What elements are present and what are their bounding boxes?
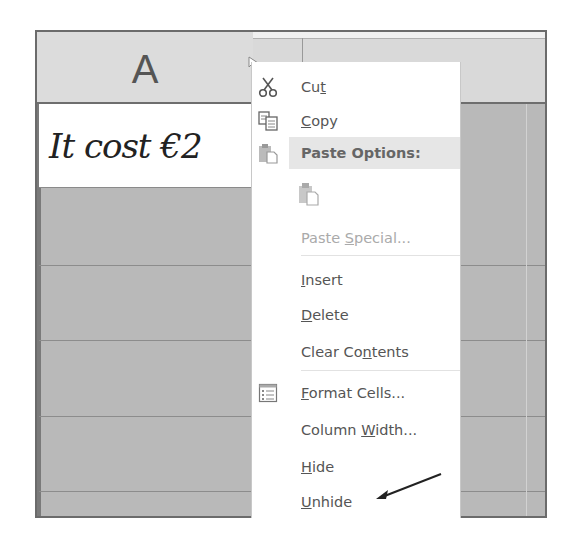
header-top-band xyxy=(253,32,545,39)
menu-item-label: Unhide xyxy=(301,494,352,510)
menu-item-cut[interactable]: Cut xyxy=(252,71,460,103)
column-gridline xyxy=(526,104,527,516)
format-cells-icon xyxy=(257,382,279,404)
menu-separator xyxy=(301,255,460,256)
menu-item-delete[interactable]: Delete xyxy=(252,299,460,331)
menu-item-label: Copy xyxy=(301,113,338,129)
menu-item-label: Hide xyxy=(301,459,334,475)
paste-icon xyxy=(257,142,279,164)
menu-item-label: Insert xyxy=(301,272,343,288)
menu-item-label: Clear Contents xyxy=(301,344,409,360)
menu-separator xyxy=(301,370,460,371)
menu-item-label: Delete xyxy=(301,307,349,323)
column-header-a[interactable]: A xyxy=(37,32,253,104)
copy-icon xyxy=(257,110,279,132)
scissors-icon xyxy=(257,76,279,98)
menu-item-hide[interactable]: Hide xyxy=(252,451,460,483)
menu-item-copy[interactable]: Copy xyxy=(252,105,460,137)
menu-item-column-width[interactable]: Column Width... xyxy=(252,414,460,446)
menu-item-format-cells[interactable]: Format Cells... xyxy=(252,377,460,409)
menu-item-label: Column Width... xyxy=(301,422,417,438)
paste-button[interactable] xyxy=(296,181,322,207)
menu-item-label: Format Cells... xyxy=(301,385,405,401)
column-header-a-label: A xyxy=(132,47,159,92)
menu-item-insert[interactable]: Insert xyxy=(252,264,460,296)
paste-icon xyxy=(296,181,322,207)
menu-item-clear-contents[interactable]: Clear Contents xyxy=(252,336,460,368)
menu-item-paste-special[interactable]: Paste Special... xyxy=(252,222,460,254)
paste-options-label: Paste Options: xyxy=(301,145,421,161)
cell-a1[interactable]: It cost €2 xyxy=(39,104,253,188)
menu-item-unhide[interactable]: Unhide xyxy=(252,486,460,518)
menu-item-label: Paste Special... xyxy=(301,230,411,246)
menu-section-paste-options: Paste Options: xyxy=(252,137,460,169)
context-menu: Cut Copy Paste Options: xyxy=(251,62,461,518)
cell-a1-text: It cost €2 xyxy=(49,126,202,166)
menu-item-label: Cut xyxy=(301,79,326,95)
